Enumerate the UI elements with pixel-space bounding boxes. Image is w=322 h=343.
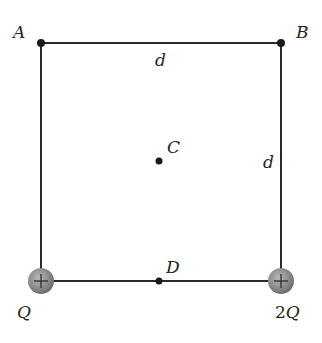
point-c-dot (156, 158, 163, 165)
label-a: A (11, 22, 25, 42)
label-b: B (295, 22, 309, 42)
point-d-dot (156, 278, 163, 285)
label-side-top-d: d (155, 50, 166, 70)
point-a-dot (37, 39, 45, 47)
label-c: C (167, 137, 180, 157)
label-charge-2q: 2Q (275, 302, 300, 322)
label-side-right-d: d (263, 152, 274, 172)
label-charge-2q-coef: 2 (275, 302, 286, 322)
charge-q (28, 268, 54, 294)
charge-2q (268, 268, 294, 294)
label-d: D (165, 257, 180, 277)
point-b-dot (277, 39, 285, 47)
square-charge-diagram: A B C D d d Q 2Q (0, 0, 322, 343)
label-charge-q: Q (17, 302, 31, 322)
label-charge-2q-var: Q (286, 302, 300, 322)
